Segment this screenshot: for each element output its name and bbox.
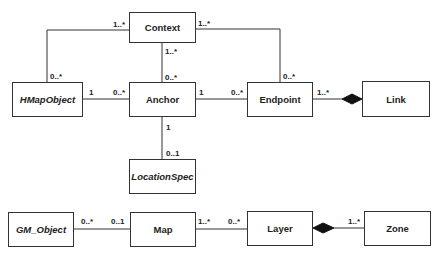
class-link-label: Link [386,94,406,105]
class-anchor[interactable]: Anchor [129,82,196,117]
mult-anchor-loc-loc: 0..1 [166,150,179,158]
class-endpoint-label: Endpoint [259,94,300,105]
mult-layer-zone-zone: 1..* [348,218,360,226]
class-endpoint[interactable]: Endpoint [247,82,313,117]
class-anchor-label: Anchor [146,94,179,105]
class-layer[interactable]: Layer [247,211,313,246]
class-layer-label: Layer [267,223,292,234]
mult-context-anchor-anchor: 0..* [165,74,177,82]
mult-hmap-anchor-hmap: 1 [89,89,93,97]
class-zone[interactable]: Zone [364,211,431,246]
class-locationspec[interactable]: LocationSpec [129,159,196,194]
class-hmapobject[interactable]: HMapObject [12,82,83,117]
mult-gm-map-gm: 0..* [81,218,93,226]
composition-diamond-link [342,94,362,104]
class-link[interactable]: Link [362,81,430,117]
mult-anchor-loc-anchor: 1 [166,124,170,132]
mult-gm-map-map: 0..1 [111,218,124,226]
class-gm-object-label: GM_Object [16,224,66,235]
class-gm-object[interactable]: GM_Object [8,212,74,247]
mult-endp-link-endp: 1..* [317,89,329,97]
mult-context-hmap-ctx: 1..* [113,21,125,29]
class-locationspec-label: LocationSpec [131,171,193,182]
mult-hmap-anchor-anchor: 0..* [113,89,125,97]
mult-context-hmap-hmap: 0..* [50,73,62,81]
class-map-label: Map [154,224,173,235]
mult-context-endp-endp: 0..* [283,73,295,81]
class-zone-label: Zone [386,223,409,234]
composition-diamond-layer [313,223,334,233]
mult-context-endp-ctx: 1..* [198,20,210,28]
assoc-context-endpoint [196,29,280,82]
class-context[interactable]: Context [129,12,196,43]
mult-anchor-endp-endp: 0..* [231,89,243,97]
mult-map-layer-layer: 0..* [228,218,240,226]
mult-context-anchor-ctx: 1..* [165,48,177,56]
mult-map-layer-map: 1..* [198,218,210,226]
class-map[interactable]: Map [130,212,196,247]
mult-anchor-endp-anchor: 1 [199,89,203,97]
class-hmapobject-label: HMapObject [20,94,75,105]
class-context-label: Context [145,22,180,33]
